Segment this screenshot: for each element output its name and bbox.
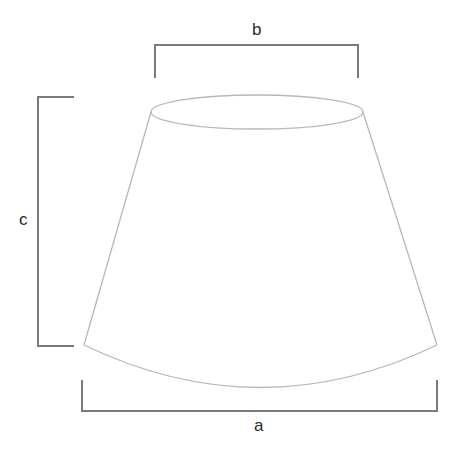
frustum-diagram bbox=[0, 0, 459, 450]
top-ellipse bbox=[151, 95, 363, 129]
label-c: c bbox=[19, 211, 28, 228]
label-a: a bbox=[254, 417, 263, 434]
diagram-canvas: b c a bbox=[0, 0, 459, 450]
right-side bbox=[363, 112, 437, 345]
bracket-a bbox=[82, 380, 437, 411]
label-b: b bbox=[252, 21, 261, 38]
left-side bbox=[84, 112, 151, 345]
frustum-shape bbox=[84, 95, 437, 388]
bracket-b bbox=[155, 45, 358, 78]
bottom-arc bbox=[84, 345, 437, 388]
bracket-c bbox=[38, 97, 74, 346]
